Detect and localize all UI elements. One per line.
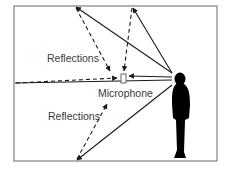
incident-ceiling-right — [133, 8, 172, 73]
direct-path — [129, 76, 172, 77]
microphone-label: Microphone — [98, 88, 153, 99]
reflected-paths — [16, 8, 132, 159]
reflection-ceiling-right — [124, 8, 132, 71]
reflections-label-top: Reflections — [47, 53, 99, 64]
reflections-label-bottom: Reflections — [48, 111, 100, 122]
incident-paths — [15, 7, 172, 160]
person-silhouette-icon — [172, 73, 190, 159]
room-frame — [14, 6, 217, 161]
microphone-icon — [121, 74, 126, 83]
reflections-diagram — [0, 0, 227, 170]
